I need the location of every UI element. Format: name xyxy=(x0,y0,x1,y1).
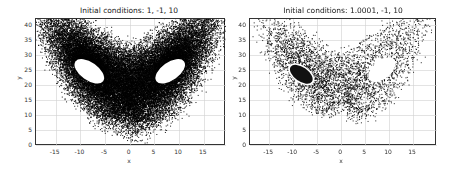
y-tick-label: 40 xyxy=(18,20,32,27)
y-tick-label: 35 xyxy=(18,35,32,42)
y-tick-label: 35 xyxy=(232,35,246,42)
x-tick-label: -10 xyxy=(287,148,297,155)
x-tick-label: 0 xyxy=(127,148,131,155)
x-tick-label: 0 xyxy=(338,148,342,155)
x-tick-label: -5 xyxy=(313,148,319,155)
x-tick-label: 10 xyxy=(384,148,392,155)
y-tick-label: 40 xyxy=(232,20,246,27)
x-tick-label: 10 xyxy=(174,148,182,155)
plot-area xyxy=(249,18,436,145)
x-tick-label: 5 xyxy=(152,148,156,155)
y-tick-label: 10 xyxy=(232,110,246,117)
plot-title: Initial conditions: 1, -1, 10 xyxy=(80,6,178,15)
x-tick-label: 5 xyxy=(362,148,366,155)
x-axis-label: x xyxy=(127,157,131,164)
y-tick-label: 5 xyxy=(18,125,32,132)
y-tick-label: 20 xyxy=(232,80,246,87)
x-axis-label: x xyxy=(339,157,343,164)
y-axis-label: y xyxy=(230,76,237,80)
x-tick-label: 15 xyxy=(408,148,416,155)
plot-area xyxy=(35,18,225,145)
y-tick-label: 0 xyxy=(18,140,32,147)
y-tick-label: 30 xyxy=(18,50,32,57)
x-tick-label: 15 xyxy=(199,148,207,155)
y-tick-label: 30 xyxy=(232,50,246,57)
y-tick-label: 25 xyxy=(18,65,32,72)
plot-left: Initial conditions: 1, -1, 10 -15-10-505… xyxy=(0,0,225,171)
plot-title: Initial conditions: 1.0001, -1, 10 xyxy=(283,6,402,15)
x-tick-label: -5 xyxy=(101,148,107,155)
y-tick-label: 25 xyxy=(232,65,246,72)
y-tick-label: 15 xyxy=(232,95,246,102)
scatter-canvas xyxy=(36,19,226,146)
y-tick-label: 0 xyxy=(232,140,246,147)
x-tick-label: -10 xyxy=(75,148,85,155)
y-tick-label: 5 xyxy=(232,125,246,132)
y-tick-label: 15 xyxy=(18,95,32,102)
y-tick-label: 20 xyxy=(18,80,32,87)
y-axis-label: y xyxy=(15,76,22,80)
x-tick-label: -15 xyxy=(50,148,60,155)
scatter-canvas xyxy=(250,19,437,146)
y-tick-label: 10 xyxy=(18,110,32,117)
x-tick-label: -15 xyxy=(263,148,273,155)
plot-right: Initial conditions: 1.0001, -1, 10 -15-1… xyxy=(225,0,450,171)
